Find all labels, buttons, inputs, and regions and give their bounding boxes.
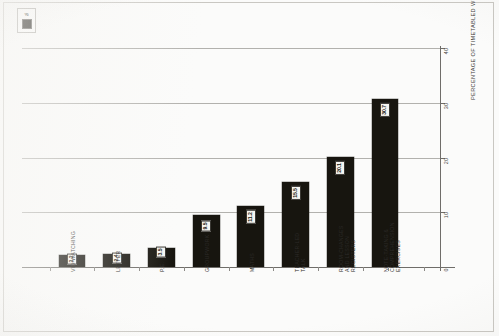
value-axis-title: PERCENTAGE OF TIMETABLED WEEK (470, 0, 476, 100)
category-axis-tick (229, 267, 230, 271)
category-label-line: EXERCISES (395, 222, 401, 272)
category-axis-tick (139, 267, 140, 271)
legend-swatch-icon (22, 19, 32, 29)
category-axis-tick (94, 267, 95, 271)
chart-page: % 2.22.43.59.511.215.520.130.7 PERCENTAG… (0, 0, 499, 336)
chart-legend: % (17, 8, 36, 33)
category-label: TEACHER-LEDTALK (294, 233, 306, 272)
category-label-line: LETTER (115, 251, 121, 272)
category-label-line: REGISTERS (350, 225, 356, 272)
category-label: P.E. (159, 262, 165, 272)
bar-value-label: 9.5 (201, 220, 211, 231)
category-label-line: P.E. (159, 262, 165, 272)
category-axis-tick (50, 267, 51, 271)
category-label-line: MATHS (249, 253, 255, 272)
category-label: MATHS (249, 253, 255, 272)
gridline-40 (22, 48, 440, 49)
value-axis-tick-label-10: 10 (443, 212, 449, 218)
category-label: VID-WATCHING (70, 231, 76, 272)
category-label: NOTE-TAKING &COMPREHENSIONEXERCISES (383, 222, 401, 272)
category-label-line: GROUPWORK (204, 235, 210, 272)
bar-value-label: 3.5 (156, 246, 166, 257)
plot-area: 2.22.43.59.511.215.520.130.7 (22, 48, 440, 267)
category-axis-tick (424, 267, 425, 271)
value-axis-tick-label-20: 20 (443, 157, 449, 163)
category-label-line: VID-WATCHING (70, 231, 76, 272)
bar-value-label: 11.2 (246, 210, 256, 224)
value-axis-tick-label-40: 40 (443, 48, 449, 54)
category-axis-tick (184, 267, 185, 271)
value-axis-tick-label-30: 30 (443, 103, 449, 109)
value-axis-tick-label-0: 0 (443, 268, 449, 271)
bar-value-label: 15.5 (291, 186, 301, 200)
category-label-line: TEACHER-LED (294, 233, 300, 272)
bar-value-label: 30.7 (380, 103, 390, 117)
value-axis-line (440, 46, 441, 271)
category-axis-tick (318, 267, 319, 271)
category-axis-tick (363, 267, 364, 271)
bar-value-label: 20.1 (335, 161, 345, 175)
category-label: GROUPWORK (204, 235, 210, 272)
category-axis-tick (273, 267, 274, 271)
category-label-line: TALK (300, 233, 306, 272)
legend-label: % (24, 13, 28, 18)
category-label: LETTER (115, 251, 121, 272)
category-label: ROOM-CHANGESAND LESSONREGISTERS (338, 225, 356, 272)
